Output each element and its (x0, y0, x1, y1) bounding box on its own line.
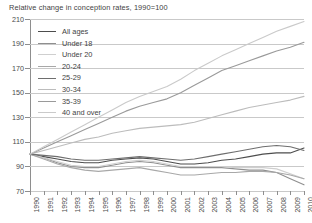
x-axis-tick-label: 1993 (74, 197, 81, 213)
gridline (30, 166, 304, 167)
legend-swatch-icon (38, 78, 56, 79)
x-axis-tick-mark (194, 191, 195, 195)
legend-item-label: Under 20 (62, 51, 92, 58)
y-axis-tick-mark (25, 44, 30, 45)
x-axis-tick-mark (263, 191, 264, 195)
y-axis-tick-label: 70 (0, 187, 24, 196)
x-axis-tick-label: 1992 (61, 197, 68, 213)
y-axis-tick-mark (25, 117, 30, 118)
chart-legend: All agesUnder 18Under 2020-2425-2930-343… (38, 26, 101, 119)
x-axis-tick-label: 1996 (115, 197, 122, 213)
legend-item[interactable]: All ages (38, 26, 101, 38)
x-axis-tick-label: 2004 (225, 197, 232, 213)
x-axis-tick-label: 2009 (294, 197, 301, 213)
legend-swatch-icon (38, 43, 56, 44)
x-axis-tick-label: 1998 (143, 197, 150, 213)
legend-swatch-icon (38, 31, 56, 32)
y-axis-tick-label: 190 (0, 39, 24, 48)
y-axis-tick-mark (25, 166, 30, 167)
gridline (30, 19, 304, 20)
x-axis-tick-label: 2005 (239, 197, 246, 213)
x-axis-tick-mark (249, 191, 250, 195)
y-axis-tick-label: 130 (0, 113, 24, 122)
gridline (30, 142, 304, 143)
y-axis-tick-label: 210 (0, 15, 24, 24)
x-axis-tick-label: 1991 (47, 197, 54, 213)
x-axis-tick-label: 2000 (170, 197, 177, 213)
y-axis-tick-label: 110 (0, 137, 24, 146)
x-axis-tick-label: 2002 (198, 197, 205, 213)
series-line (30, 148, 304, 164)
y-axis-tick-mark (25, 142, 30, 143)
chart-title: Relative change in conception rates, 199… (9, 3, 168, 12)
legend-item[interactable]: 20-24 (38, 61, 101, 73)
x-axis-tick-label: 1997 (129, 197, 136, 213)
x-axis-tick-label: 2007 (266, 197, 273, 213)
y-axis-tick-label: 170 (0, 64, 24, 73)
x-axis-tick-label: 1999 (157, 197, 164, 213)
x-axis-tick-mark (236, 191, 237, 195)
legend-item-label: Under 18 (62, 40, 92, 47)
x-axis-tick-label: 1990 (33, 197, 40, 213)
legend-swatch-icon (38, 66, 56, 67)
y-axis-tick-label: 150 (0, 88, 24, 97)
legend-item-label: 25-29 (62, 74, 81, 81)
x-axis-tick-mark (99, 191, 100, 195)
legend-item-label: 20-24 (62, 63, 81, 70)
x-axis-tick-label: 1994 (88, 197, 95, 213)
x-axis-tick-mark (290, 191, 291, 195)
x-axis-tick-mark (304, 191, 305, 195)
x-axis-tick-mark (30, 191, 31, 195)
legend-item-label: All ages (62, 28, 88, 35)
legend-item-label: 40 and over (62, 109, 101, 116)
legend-item[interactable]: 25-29 (38, 72, 101, 84)
x-axis-tick-label: 2003 (211, 197, 218, 213)
x-axis-tick-mark (181, 191, 182, 195)
legend-item[interactable]: Under 18 (38, 38, 101, 50)
x-axis-tick-mark (57, 191, 58, 195)
legend-item-label: 35-39 (62, 98, 81, 105)
y-axis-tick-mark (25, 19, 30, 20)
legend-item[interactable]: 35-39 (38, 96, 101, 108)
y-axis-tick-mark (25, 93, 30, 94)
x-axis-tick-label: 2001 (184, 197, 191, 213)
x-axis-tick-label: 2008 (280, 197, 287, 213)
x-axis-tick-label: 1995 (102, 197, 109, 213)
legend-swatch-icon (38, 112, 56, 113)
legend-swatch-icon (38, 54, 56, 55)
x-axis-tick-label: 2010 (307, 197, 312, 213)
x-axis-tick-mark (140, 191, 141, 195)
x-axis-tick-mark (222, 191, 223, 195)
legend-item[interactable]: 30-34 (38, 84, 101, 96)
series-line (30, 146, 304, 161)
x-axis-tick-mark (112, 191, 113, 195)
legend-swatch-icon (38, 89, 56, 90)
x-axis-tick-mark (208, 191, 209, 195)
legend-item-label: 30-34 (62, 86, 81, 93)
x-axis-tick-mark (71, 191, 72, 195)
x-axis-tick-mark (167, 191, 168, 195)
x-axis-tick-mark (126, 191, 127, 195)
series-line (30, 154, 304, 185)
y-axis-tick-mark (25, 68, 30, 69)
legend-item[interactable]: 40 and over (38, 107, 101, 119)
x-axis-tick-mark (85, 191, 86, 195)
x-axis-tick-label: 2006 (252, 197, 259, 213)
y-axis-tick-label: 90 (0, 162, 24, 171)
legend-swatch-icon (38, 101, 56, 102)
x-axis-tick-mark (44, 191, 45, 195)
x-axis-tick-mark (277, 191, 278, 195)
x-axis-tick-mark (153, 191, 154, 195)
chart-container: Relative change in conception rates, 199… (0, 0, 312, 223)
legend-item[interactable]: Under 20 (38, 49, 101, 61)
